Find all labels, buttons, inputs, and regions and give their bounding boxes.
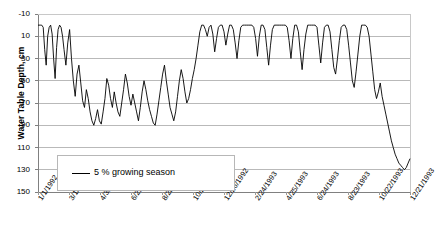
y-tick-label: 70 [6,98,30,107]
data-series-group [38,25,410,170]
y-tick-label: 130 [6,165,30,174]
y-tick-label: 110 [6,143,30,152]
legend-line-swatch [72,173,90,175]
water-table-depth-chart: Water Table Depth, cm -10103050709011013… [0,0,447,249]
plot-area [0,0,447,249]
y-tick-label: 10 [6,31,30,40]
y-tick-label: 30 [6,54,30,63]
y-tick-label: 90 [6,120,30,129]
y-tick-label: 150 [6,187,30,196]
y-tick-label: 50 [6,76,30,85]
y-tick-label: -10 [6,9,30,18]
legend-label: 5 % growing season [94,167,175,177]
series-line [38,25,410,170]
